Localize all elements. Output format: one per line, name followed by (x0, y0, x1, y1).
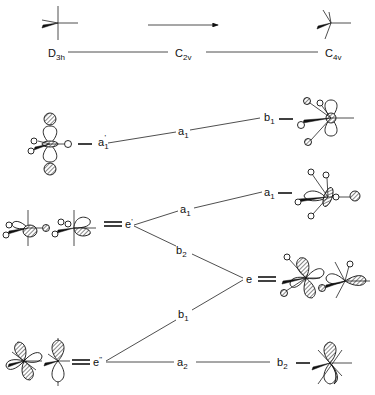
label-c4v-b2: b2 (277, 356, 288, 371)
level-labels: a1' a1 b1 e' a1 a1 b2 e b1 e" a2 b2 (72, 111, 310, 371)
label-e-prime: e' (125, 217, 133, 230)
label-c2v-a1-top: a1 (178, 125, 189, 140)
label-e-double-prime: e" (93, 355, 102, 368)
correlation-diagram: D3h C2v C4v a1' a1 b1 e' (0, 0, 375, 395)
a1-orbital-icon (295, 169, 360, 219)
e-prime-orbital-pair-icon (3, 210, 96, 246)
label-c4v-b1: b1 (264, 111, 275, 126)
e-double-prime-orbital-pair-icon (6, 338, 70, 386)
label-c4v: C4v (325, 47, 341, 62)
label-c2v-b2: b2 (176, 244, 187, 259)
label-c2v: C2v (175, 47, 191, 62)
d3h-structure-icon (42, 6, 78, 40)
label-c4v-a1: a1 (264, 186, 275, 201)
label-c4v-e: e (246, 273, 252, 285)
symmetry-labels: D3h C2v C4v (48, 47, 341, 62)
b2-orbital-icon (312, 342, 352, 384)
label-c2v-a2: a2 (177, 356, 188, 371)
c4v-structure-icon (317, 10, 351, 39)
correlation-lines (106, 118, 270, 362)
a1-prime-orbital-icon (28, 113, 72, 175)
label-c2v-b1: b1 (178, 308, 189, 323)
label-a1-prime: a1' (98, 133, 109, 151)
label-d3h: D3h (48, 47, 65, 62)
b1-orbital-icon (298, 98, 355, 146)
label-c2v-a1-mid: a1 (180, 203, 191, 218)
e-orbital-pair-icon (281, 254, 371, 298)
